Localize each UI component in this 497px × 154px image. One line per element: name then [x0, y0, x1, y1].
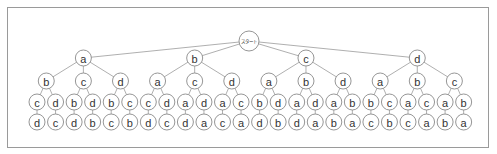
tree-node-level-3: d [85, 94, 101, 110]
tree-node-level-4: b [85, 114, 101, 130]
node-label: d [164, 97, 170, 109]
node-label: d [90, 97, 96, 109]
tree-node-level-4: c [159, 114, 175, 130]
tree-node-level-4: c [363, 114, 379, 130]
tree-node-level-4: b [381, 114, 397, 130]
tree-node-level-4: b [326, 114, 342, 130]
node-label: b [71, 97, 77, 109]
tree-node-level-2: c [75, 73, 91, 89]
tree-node-level-3: a [326, 94, 342, 110]
tree-node-level-4: d [177, 114, 193, 130]
tree-node-level-3: b [103, 94, 119, 110]
tree-node-level-3: b [252, 94, 268, 110]
node-label: d [71, 117, 77, 129]
node-label: a [405, 97, 412, 109]
node-label: b [192, 53, 198, 65]
node-label: d [340, 76, 346, 88]
tree-node-level-2: d [335, 73, 351, 89]
node-label: b [349, 97, 355, 109]
tree-node-level-1: a [75, 50, 91, 66]
node-label: c [368, 117, 374, 129]
tree-node-level-4: d [66, 114, 82, 130]
node-label: a [349, 117, 356, 129]
node-label: c [387, 97, 393, 109]
tree-node-level-4: a [307, 114, 323, 130]
tree-node-level-3: b [344, 94, 360, 110]
node-label: a [80, 53, 87, 65]
node-label: a [423, 117, 430, 129]
tree-node-level-3: c [381, 94, 397, 110]
tree-node-level-3: d [159, 94, 175, 110]
tree-node-level-3: c [140, 94, 156, 110]
tree-node-level-3: c [122, 94, 138, 110]
node-label: b [90, 117, 96, 129]
node-label: a [442, 97, 449, 109]
node-label: b [303, 76, 309, 88]
node-label: c [108, 117, 114, 129]
node-label: d [201, 97, 207, 109]
node-label: c [192, 76, 198, 88]
node-label: d [52, 97, 58, 109]
node-label: c [146, 97, 152, 109]
node-label: b [461, 97, 467, 109]
node-label: b [257, 97, 263, 109]
tree-node-level-3: c [29, 94, 45, 110]
node-label: a [461, 117, 468, 129]
tree-node-level-4: b [270, 114, 286, 130]
node-label: b [386, 117, 392, 129]
tree-edge [83, 41, 249, 58]
node-label: b [275, 117, 281, 129]
tree-node-level-3: c [233, 94, 249, 110]
tree-node-level-4: a [196, 114, 212, 130]
node-label: c [238, 97, 244, 109]
tree-node-level-3: a [215, 94, 231, 110]
node-label: d [117, 76, 123, 88]
permutation-tree: dccdbdbbdccbbcdadccdadaadccaacdbdbbdadaa… [0, 0, 497, 154]
tree-edge [249, 41, 417, 58]
tree-node-level-2: c [446, 73, 462, 89]
node-label: d [294, 117, 300, 129]
node-label: c [164, 117, 170, 129]
node-label: a [155, 76, 162, 88]
tree-node-level-2: b [409, 73, 425, 89]
tree-node-level-4: b [122, 114, 138, 130]
node-label: b [43, 76, 49, 88]
tree-node-level-4: c [400, 114, 416, 130]
node-label: d [414, 53, 420, 65]
node-label: a [312, 117, 319, 129]
node-label: d [312, 97, 318, 109]
node-label: c [34, 97, 40, 109]
node-label: b [442, 117, 448, 129]
node-label: c [220, 117, 226, 129]
node-label: b [414, 76, 420, 88]
node-label: a [266, 76, 273, 88]
tree-node-level-3: b [363, 94, 379, 110]
tree-node-level-4: d [289, 114, 305, 130]
tree-node-level-2: b [298, 73, 314, 89]
tree-node-level-4: d [29, 114, 45, 130]
node-label: c [53, 117, 59, 129]
node-label: d [229, 76, 235, 88]
tree-node-level-2: c [187, 73, 203, 89]
tree-node-level-4: b [437, 114, 453, 130]
node-label: d [182, 117, 188, 129]
node-label: d [257, 117, 263, 129]
node-label: スタート [241, 38, 257, 45]
node-label: a [294, 97, 301, 109]
tree-node-level-4: d [252, 114, 268, 130]
tree-node-level-2: a [261, 73, 277, 89]
tree-nodes: dccdbdbbdccbbcdadccdadaadccaacdbdbbdadaa… [29, 31, 472, 130]
tree-node-level-4: a [344, 114, 360, 130]
tree-node-level-3: c [419, 94, 435, 110]
tree-node-level-3: d [196, 94, 212, 110]
tree-node-level-2: a [372, 73, 388, 89]
node-label: c [81, 76, 87, 88]
root-node-start: スタート [239, 31, 259, 51]
node-label: c [424, 97, 430, 109]
tree-node-level-3: d [48, 94, 64, 110]
node-label: a [201, 117, 208, 129]
tree-node-level-1: b [187, 50, 203, 66]
tree-node-level-4: d [140, 114, 156, 130]
tree-edges [37, 41, 464, 122]
node-label: c [303, 53, 309, 65]
